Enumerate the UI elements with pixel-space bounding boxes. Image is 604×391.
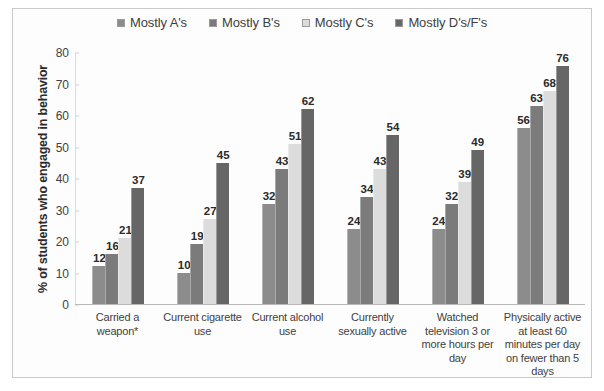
bar-value-label: 54	[386, 121, 399, 133]
bar[interactable]: 37	[131, 188, 144, 304]
bar-value-label: 43	[373, 155, 386, 167]
bar-slot: 62	[301, 53, 314, 304]
y-axis-tick-label: 70	[56, 78, 69, 92]
bar[interactable]: 43	[373, 169, 386, 304]
bar-value-label: 43	[276, 155, 289, 167]
legend-swatch-mostly-dfs	[395, 19, 403, 27]
bar-slot: 24	[432, 53, 445, 304]
bar-slot: 68	[543, 53, 556, 304]
y-axis-tick-label: 60	[56, 109, 69, 123]
bar-value-label: 24	[432, 215, 445, 227]
y-axis-tick-label: 0	[62, 298, 69, 312]
bar[interactable]: 19	[190, 244, 203, 304]
bar[interactable]: 34	[360, 197, 373, 304]
bar[interactable]: 12	[92, 266, 105, 304]
bar-value-label: 68	[543, 77, 556, 89]
bar-value-label: 19	[191, 230, 204, 242]
bar[interactable]: 24	[347, 229, 360, 304]
bar-slot: 56	[517, 53, 530, 304]
bar-value-label: 62	[302, 95, 315, 107]
bar-slot: 10	[177, 53, 190, 304]
bar-slot: 32	[262, 53, 275, 304]
bar[interactable]: 24	[432, 229, 445, 304]
bar-value-label: 27	[204, 205, 217, 217]
bar[interactable]: 10	[177, 273, 190, 304]
bar-value-label: 24	[347, 215, 360, 227]
x-axis-category-labels: Carried a weapon*Current cigarette useCu…	[75, 311, 585, 379]
bar[interactable]: 56	[517, 128, 530, 304]
bar-value-label: 51	[289, 130, 302, 142]
bar[interactable]: 45	[216, 163, 229, 304]
bar-slot: 34	[360, 53, 373, 304]
bar-groups: 1216213710192745324351622434435424323949…	[76, 53, 585, 304]
bar[interactable]: 43	[275, 169, 288, 304]
bar[interactable]: 32	[445, 204, 458, 304]
bar-value-label: 63	[530, 92, 543, 104]
plot-area: 01020304050607080 1216213710192745324351…	[75, 53, 585, 305]
legend-item-mostly-bs[interactable]: Mostly B's	[209, 15, 280, 30]
bar-value-label: 56	[517, 114, 530, 126]
legend-label-mostly-as: Mostly A's	[130, 15, 187, 30]
bar-value-label: 34	[360, 183, 373, 195]
x-axis-category-label: Current cigarette use	[160, 311, 245, 379]
x-axis-category-label: Physically active at least 60 minutes pe…	[500, 311, 585, 379]
bar-slot: 27	[203, 53, 216, 304]
bar-value-label: 32	[445, 190, 458, 202]
x-axis-category-label: Current alcohol use	[245, 311, 330, 379]
bar-slot: 19	[190, 53, 203, 304]
bar-value-label: 32	[263, 190, 276, 202]
bar-group: 10192745	[161, 53, 246, 304]
bar-value-label: 16	[106, 240, 119, 252]
bar-slot: 39	[458, 53, 471, 304]
bar-group: 12162137	[76, 53, 161, 304]
y-axis-tick-label: 10	[56, 267, 69, 281]
bar-value-label: 45	[217, 149, 230, 161]
bar-value-label: 49	[471, 136, 484, 148]
bar-value-label: 21	[119, 224, 132, 236]
bar[interactable]: 68	[543, 91, 556, 304]
bar[interactable]: 51	[288, 144, 301, 304]
x-axis-category-label: Currently sexually active	[330, 311, 415, 379]
bar[interactable]: 16	[105, 254, 118, 304]
bar-group: 24344354	[330, 53, 415, 304]
bar-slot: 21	[118, 53, 131, 304]
legend-item-mostly-as[interactable]: Mostly A's	[117, 15, 187, 30]
bar-slot: 49	[471, 53, 484, 304]
bar-slot: 51	[288, 53, 301, 304]
legend-label-mostly-bs: Mostly B's	[222, 15, 280, 30]
bar[interactable]: 49	[471, 150, 484, 304]
bar[interactable]: 76	[556, 66, 569, 304]
bar-slot: 32	[445, 53, 458, 304]
y-axis-tick-label: 50	[56, 141, 69, 155]
bar-slot: 43	[373, 53, 386, 304]
bar-group: 56636876	[500, 53, 585, 304]
x-axis-line	[75, 304, 585, 305]
y-axis-tick-label: 80	[56, 46, 69, 60]
x-axis-category-label: Carried a weapon*	[75, 311, 160, 379]
bar-slot: 76	[556, 53, 569, 304]
bar-slot: 45	[216, 53, 229, 304]
chart-frame: Mostly A's Mostly B's Mostly C's Mostly …	[12, 8, 592, 378]
bar[interactable]: 62	[301, 109, 314, 304]
bar[interactable]: 21	[118, 238, 131, 304]
legend-item-mostly-dfs[interactable]: Mostly D's/F's	[395, 15, 487, 30]
bar-value-label: 39	[458, 168, 471, 180]
bar-slot: 63	[530, 53, 543, 304]
y-axis-title-text: % of students who engaged in behavior	[36, 65, 50, 293]
bar-value-label: 10	[178, 259, 191, 271]
y-axis-title: % of students who engaged in behavior	[35, 53, 51, 305]
bar[interactable]: 63	[530, 106, 543, 304]
legend-item-mostly-cs[interactable]: Mostly C's	[302, 15, 374, 30]
legend-swatch-mostly-bs	[209, 19, 217, 27]
bar[interactable]: 27	[203, 219, 216, 304]
bar-slot: 16	[105, 53, 118, 304]
bar-group: 32435162	[246, 53, 331, 304]
legend-swatch-mostly-cs	[302, 19, 310, 27]
bar-value-label: 76	[556, 52, 569, 64]
bar[interactable]: 39	[458, 182, 471, 304]
y-axis-tick-label: 30	[56, 204, 69, 218]
bar[interactable]: 32	[262, 204, 275, 304]
bar[interactable]: 54	[386, 135, 399, 304]
chart-legend: Mostly A's Mostly B's Mostly C's Mostly …	[13, 15, 591, 30]
bar-slot: 54	[386, 53, 399, 304]
